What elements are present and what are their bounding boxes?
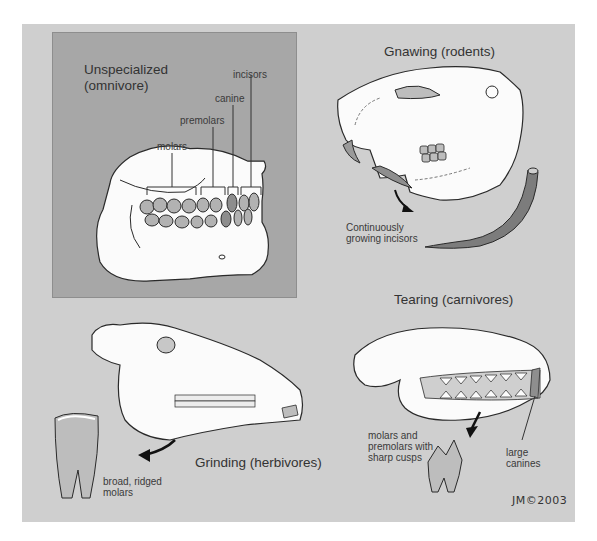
herbivore-title: Grinding (herbivores) bbox=[195, 455, 322, 471]
omnivore-skull-icon bbox=[0, 0, 268, 320]
herbivore-skull-icon bbox=[55, 323, 303, 498]
label-canine: canine bbox=[215, 93, 244, 104]
carnivore-caption-line3: sharp cusps bbox=[368, 452, 422, 463]
label-premolars: premolars bbox=[180, 115, 224, 126]
carnivore-caption-line2: premolars with bbox=[368, 441, 433, 452]
carnivore-caption-line1: molars and bbox=[368, 430, 417, 441]
rodent-caption-line2: growing incisors bbox=[346, 233, 418, 244]
carnivore-title: Tearing (carnivores) bbox=[394, 292, 513, 308]
carnivore-canine-line1: large bbox=[506, 447, 528, 458]
rodent-caption-line1: Continuously bbox=[346, 222, 404, 233]
omnivore-title-line2: (omnivore) bbox=[84, 78, 149, 94]
label-incisors: incisors bbox=[233, 69, 267, 80]
artist-signature: JM©2003 bbox=[512, 494, 567, 507]
label-molars: molars bbox=[157, 141, 187, 152]
herbivore-caption-line1: broad, ridged bbox=[103, 476, 162, 487]
rodent-title: Gnawing (rodents) bbox=[384, 44, 495, 60]
omnivore-title-line1: Unspecialized bbox=[84, 62, 168, 78]
carnivore-canine-line2: canines bbox=[506, 458, 540, 469]
herbivore-caption-line2: molars bbox=[103, 487, 133, 498]
